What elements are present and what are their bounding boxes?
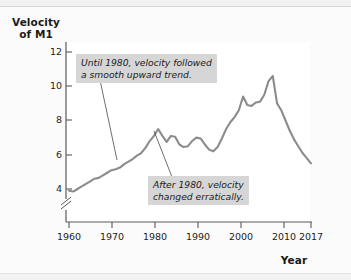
x-tick-label-1960: 1960 (52, 231, 86, 242)
x-tick-label-1970: 1970 (95, 231, 129, 242)
x-tick-label-1990: 1990 (181, 231, 215, 242)
x-tick-label-2000: 2000 (224, 231, 258, 242)
y-tick-label-4: 4 (44, 183, 62, 194)
leader-line-note-1 (100, 80, 117, 160)
x-tick-marks (69, 222, 311, 228)
axis-break-mark-1 (61, 201, 71, 209)
chart-figure: Velocity of M1 Year 12 10 8 6 4 1960 197… (0, 0, 351, 280)
x-axis-title: Year (272, 254, 316, 266)
y-tick-marks (66, 52, 72, 189)
y-tick-label-6: 6 (44, 149, 62, 160)
y-tick-label-10: 10 (44, 80, 62, 91)
velocity-line (69, 76, 311, 192)
x-tick-label-1980: 1980 (138, 231, 172, 242)
y-tick-label-12: 12 (44, 46, 62, 57)
y-tick-label-8: 8 (44, 114, 62, 125)
y-axis-title: Velocity of M1 (8, 16, 64, 40)
x-tick-label-2017: 2017 (294, 231, 328, 242)
annotation-until-1980: Until 1980, velocity followed a smooth u… (76, 54, 217, 83)
annotation-after-1980: After 1980, velocity changed erratically… (148, 176, 249, 205)
